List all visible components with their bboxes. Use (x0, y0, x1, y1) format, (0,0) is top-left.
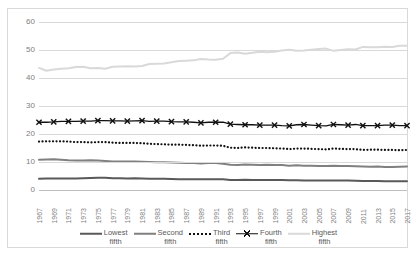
series-line-fourth-fifth (39, 121, 407, 126)
x-tick-2011: 2011 (360, 209, 367, 224)
x-tick-1969: 1969 (51, 208, 58, 224)
series-line-third-fifth (39, 141, 407, 150)
x-tick-2015: 2015 (389, 208, 396, 224)
x-tick-1971: 1971 (65, 208, 72, 224)
gridline-0 (39, 190, 407, 191)
x-tick-1997: 1997 (257, 208, 264, 224)
legend-item-second[interactable]: Secondfifth (134, 228, 183, 246)
gridline-50 (39, 50, 407, 51)
x-tick-1999: 1999 (272, 208, 279, 224)
gridline-40 (39, 78, 407, 79)
x-tick-1967: 1967 (36, 208, 43, 224)
x-tick-1989: 1989 (198, 208, 205, 224)
x-tick-1987: 1987 (183, 208, 190, 224)
x-tick-2003: 2003 (301, 208, 308, 224)
x-tick-1977: 1977 (110, 208, 117, 224)
y-tick-30: 30 (26, 102, 35, 110)
series-line-second-fifth (39, 159, 407, 167)
legend-item-third[interactable]: Thirdfifth (189, 228, 230, 246)
x-tick-1973: 1973 (80, 208, 87, 224)
x-tick-2013: 2013 (375, 208, 382, 224)
x-axis-tick-labels: 1967196919711973197519771979198119831985… (39, 192, 407, 224)
x-tick-1975: 1975 (95, 208, 102, 224)
legend-label-highest: Highestfifth (312, 228, 337, 246)
x-tick-1995: 1995 (242, 208, 249, 224)
legend-item-highest[interactable]: Highestfifth (288, 228, 337, 246)
x-tick-2005: 2005 (316, 208, 323, 224)
plot-area: 0102030405060 (39, 22, 407, 190)
chart-legend: LowestfifthSecondfifthThirdfifthFourthfi… (16, 228, 401, 254)
gridline-20 (39, 134, 407, 135)
legend-label-lowest: Lowestfifth (104, 228, 128, 246)
x-tick-1979: 1979 (124, 208, 131, 224)
legend-label-second: Secondfifth (158, 228, 183, 246)
legend-swatch-third-icon (189, 228, 211, 239)
series-line-lowest-fifth (39, 178, 407, 182)
legend-swatch-highest-icon (288, 228, 310, 239)
legend-label-third: Thirdfifth (213, 228, 230, 246)
x-tick-1991: 1991 (213, 208, 220, 224)
legend-swatch-fourth-icon (236, 228, 258, 239)
y-tick-50: 50 (26, 46, 35, 54)
legend-label-fourth: Fourthfifth (260, 228, 282, 246)
y-tick-60: 60 (26, 18, 35, 26)
x-tick-2007: 2007 (330, 208, 337, 224)
x-tick-2017: 2017 (404, 208, 411, 224)
x-tick-1983: 1983 (154, 208, 161, 224)
gridline-10 (39, 162, 407, 163)
y-tick-20: 20 (26, 130, 35, 138)
legend-swatch-second-icon (134, 228, 156, 239)
x-tick-1985: 1985 (168, 208, 175, 224)
y-tick-40: 40 (26, 74, 35, 82)
legend-item-lowest[interactable]: Lowestfifth (80, 228, 128, 246)
y-tick-0: 0 (31, 186, 35, 194)
gridline-30 (39, 106, 407, 107)
legend-swatch-lowest-icon (80, 228, 102, 239)
x-tick-1993: 1993 (227, 208, 234, 224)
legend-item-fourth[interactable]: Fourthfifth (236, 228, 282, 246)
x-tick-2001: 2001 (286, 208, 293, 224)
chart-container: 0102030405060 19671969197119731975197719… (7, 8, 408, 248)
x-tick-2009: 2009 (345, 208, 352, 224)
gridline-60 (39, 22, 407, 23)
x-tick-1981: 1981 (139, 208, 146, 224)
y-tick-10: 10 (26, 158, 35, 166)
